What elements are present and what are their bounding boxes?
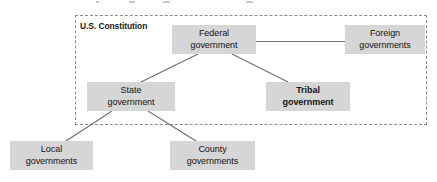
node-state-government-line-1: State [121,85,142,97]
node-tribal-government-line-1: Tribal [296,85,320,97]
node-local-governments-line-1: Local [41,144,62,156]
us-constitution-label: U.S. Constitution [80,21,147,31]
node-federal-government-line-2: government [190,40,237,52]
node-foreign-governments-line-2: governments [359,40,410,52]
node-local-governments: Local governments [10,141,93,170]
node-county-governments-line-2: governments [187,156,238,168]
node-state-government: State government [87,82,175,111]
node-county-governments-line-1: County [198,144,226,156]
cropped-caption-sliver [0,0,437,4]
constitution-diagram: U.S. Constitution Federal government For… [0,0,437,182]
node-tribal-government: Tribal government [266,82,350,111]
node-foreign-governments: Foreign governments [345,25,425,54]
node-county-governments: County governments [170,141,255,170]
node-federal-government: Federal government [172,25,256,54]
node-tribal-government-line-2: government [282,97,333,109]
node-state-government-line-2: government [107,97,154,109]
node-local-governments-line-2: governments [26,156,77,168]
node-federal-government-line-1: Federal [199,28,229,40]
node-foreign-governments-line-1: Foreign [370,28,400,40]
